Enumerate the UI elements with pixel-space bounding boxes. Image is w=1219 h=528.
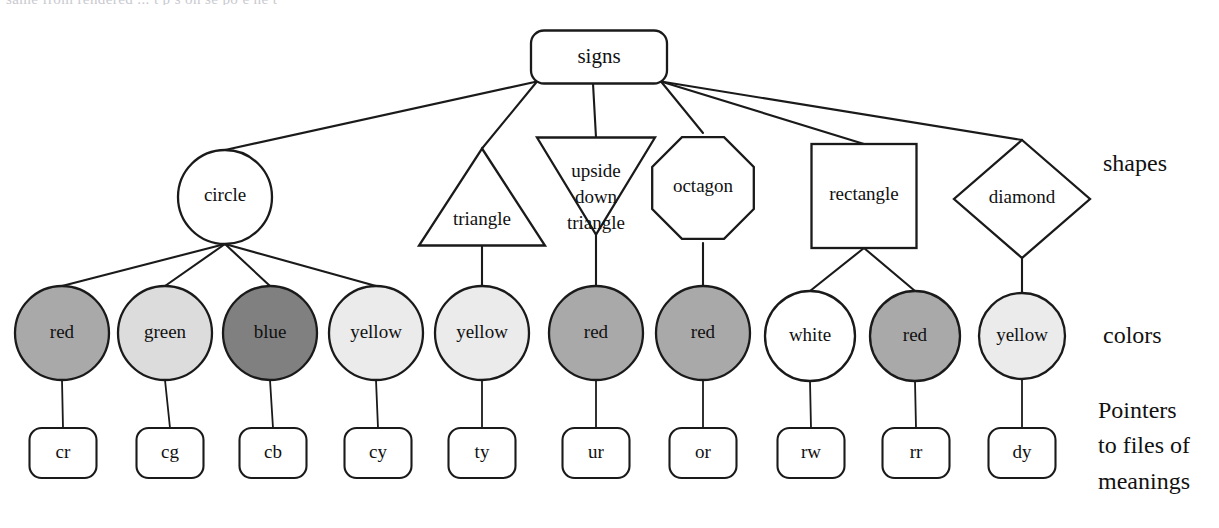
shape-node-label-circle: circle bbox=[204, 184, 246, 205]
edge-cb-to-leaf-cb bbox=[270, 380, 273, 428]
diagram-canvas: same from rendered ... t p s on se po e … bbox=[0, 0, 1219, 528]
leaf-node-label-rw: rw bbox=[801, 441, 821, 462]
color-node-label-ty: yellow bbox=[456, 321, 508, 342]
edge-signs-to-diamond bbox=[661, 82, 1022, 141]
leaf-node-label-or: or bbox=[695, 441, 712, 462]
shape-node-circle[interactable]: circle bbox=[178, 150, 272, 244]
root-node-label: signs bbox=[577, 44, 620, 68]
row-labels-group: shapescolorsPointersto files ofmeanings bbox=[1098, 150, 1190, 494]
edge-signs-to-upside bbox=[593, 84, 596, 138]
shape-node-label-rectangle: rectangle bbox=[829, 183, 899, 204]
edge-cr-to-leaf-cr bbox=[62, 380, 63, 428]
edge-cg-to-leaf-cg bbox=[165, 380, 170, 428]
color-nodes-group: redgreenblueyellowyellowredredwhiteredye… bbox=[15, 286, 1065, 381]
row-label-pointers-line2: to files of bbox=[1098, 432, 1190, 458]
shape-node-upside[interactable]: upsidedowntriangle bbox=[537, 138, 655, 235]
color-node-label-rw: white bbox=[789, 324, 831, 345]
color-node-cy[interactable]: yellow bbox=[329, 286, 423, 380]
color-node-ty[interactable]: yellow bbox=[435, 286, 529, 380]
color-node-cg[interactable]: green bbox=[118, 286, 212, 380]
color-node-label-cb: blue bbox=[254, 321, 287, 342]
leaf-node-label-ty: ty bbox=[475, 441, 490, 462]
leaf-node-label-dy: dy bbox=[1013, 441, 1033, 462]
edge-circle-to-cg bbox=[165, 244, 225, 286]
leaf-node-label-cb: cb bbox=[264, 441, 282, 462]
shape-node-label-octagon: octagon bbox=[673, 175, 734, 196]
edge-signs-to-octagon bbox=[661, 82, 703, 134]
leaf-node-cr[interactable]: cr bbox=[30, 428, 97, 478]
color-node-label-ur: red bbox=[584, 321, 609, 342]
leaf-node-label-ur: ur bbox=[588, 441, 605, 462]
color-node-rr[interactable]: red bbox=[870, 291, 960, 381]
root-node-group: signs bbox=[531, 31, 667, 84]
leaf-node-cy[interactable]: cy bbox=[345, 428, 412, 478]
color-node-cr[interactable]: red bbox=[15, 286, 109, 380]
leaf-node-cb[interactable]: cb bbox=[240, 428, 307, 478]
leaf-node-label-cr: cr bbox=[56, 441, 71, 462]
edge-rr-to-leaf-rr bbox=[915, 381, 916, 428]
triangle-outline-icon bbox=[419, 149, 545, 246]
edge-rectangle-to-rw bbox=[810, 248, 864, 291]
edge-circle-to-cr bbox=[62, 244, 225, 286]
leaf-node-rw[interactable]: rw bbox=[778, 428, 845, 478]
shape-node-triangle[interactable]: triangle bbox=[419, 149, 545, 246]
color-node-label-cg: green bbox=[144, 321, 187, 342]
edge-rectangle-to-rr bbox=[864, 248, 915, 291]
edge-cy-to-leaf-cy bbox=[376, 380, 378, 428]
color-node-label-cr: red bbox=[50, 321, 75, 342]
color-node-label-rr: red bbox=[903, 324, 928, 345]
color-node-label-dy: yellow bbox=[996, 324, 1048, 345]
color-node-cb[interactable]: blue bbox=[223, 286, 317, 380]
leaf-node-label-cy: cy bbox=[369, 441, 387, 462]
leaf-node-label-rr: rr bbox=[910, 441, 923, 462]
leaf-node-dy[interactable]: dy bbox=[989, 428, 1056, 478]
color-node-label-cy: yellow bbox=[350, 321, 402, 342]
leaf-node-ur[interactable]: ur bbox=[563, 428, 630, 478]
edges-colors-to-leaves bbox=[62, 379, 1022, 428]
row-label-shapes: shapes bbox=[1103, 150, 1167, 176]
leaf-node-ty[interactable]: ty bbox=[449, 428, 516, 478]
leaf-nodes-group: crcgcbcytyurorrwrrdy bbox=[30, 428, 1056, 478]
shape-nodes-group: circletriangleupsidedowntriangleoctagonr… bbox=[178, 137, 1090, 258]
leaf-node-or[interactable]: or bbox=[670, 428, 737, 478]
row-label-pointers-line1: Pointers bbox=[1098, 397, 1177, 423]
leaf-node-rr[interactable]: rr bbox=[883, 428, 950, 478]
color-node-or[interactable]: red bbox=[656, 286, 750, 380]
row-label-pointers-line3: meanings bbox=[1098, 468, 1190, 494]
page-bleed-text: same from rendered ... t p s on se po e … bbox=[6, 0, 626, 5]
shape-node-octagon[interactable]: octagon bbox=[652, 137, 754, 239]
color-node-rw[interactable]: white bbox=[765, 291, 855, 381]
leaf-node-label-cg: cg bbox=[161, 441, 179, 462]
leaf-node-cg[interactable]: cg bbox=[137, 428, 204, 478]
shape-node-label-diamond: diamond bbox=[989, 186, 1056, 207]
shape-node-diamond[interactable]: diamond bbox=[954, 140, 1090, 258]
edge-signs-to-rectangle bbox=[661, 82, 864, 145]
root-node-signs[interactable]: signs bbox=[531, 31, 667, 84]
color-node-ur[interactable]: red bbox=[549, 286, 643, 380]
row-label-colors: colors bbox=[1103, 322, 1162, 348]
edge-rw-to-leaf-rw bbox=[810, 381, 811, 428]
color-node-dy[interactable]: yellow bbox=[979, 293, 1065, 379]
color-node-label-or: red bbox=[691, 321, 716, 342]
shape-node-label-upside: upsidedowntriangle bbox=[567, 160, 625, 233]
signs-taxonomy-diagram: circletriangleupsidedowntriangleoctagonr… bbox=[0, 0, 1219, 528]
shape-node-rectangle[interactable]: rectangle bbox=[812, 144, 917, 248]
shape-node-label-triangle: triangle bbox=[453, 208, 511, 229]
